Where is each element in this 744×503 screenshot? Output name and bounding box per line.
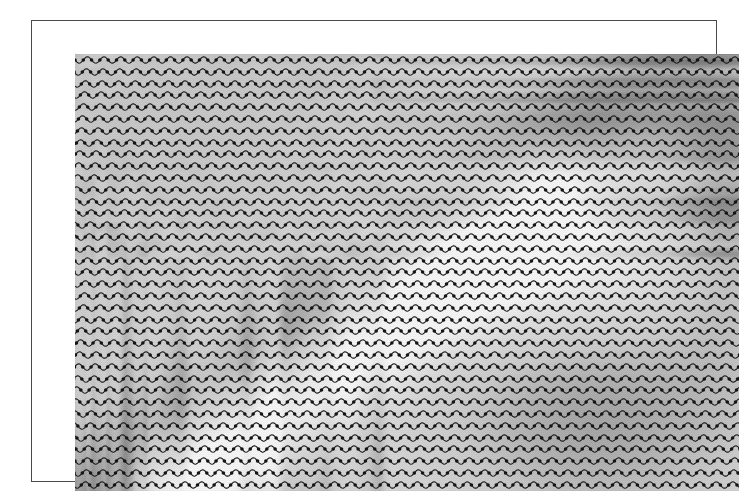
plot-area: [75, 54, 739, 491]
figure-root: [0, 0, 744, 503]
wave-profile-plot-canvas: [75, 54, 739, 491]
figure-frame: [31, 20, 717, 482]
